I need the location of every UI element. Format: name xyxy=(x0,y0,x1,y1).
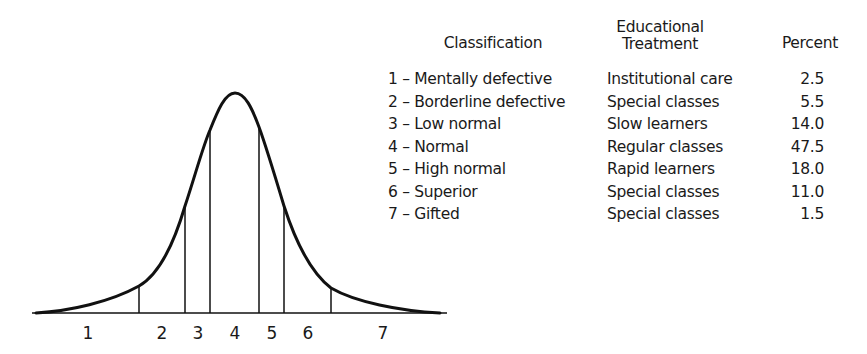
row-classification-7: 7 – Gifted xyxy=(388,205,459,223)
row-classification-1: 1 – Mentally defective xyxy=(388,70,552,88)
row-percent-5: 18.0 xyxy=(764,160,824,178)
row-classification-5: 5 – High normal xyxy=(388,160,506,178)
row-classification-4: 4 – Normal xyxy=(388,138,469,156)
header-treatment-line1: Educational xyxy=(600,19,720,36)
row-classification-3: 3 – Low normal xyxy=(388,115,501,133)
row-percent-7: 1.5 xyxy=(764,205,824,223)
row-treatment-2: Special classes xyxy=(607,93,719,111)
header-percent: Percent xyxy=(770,35,850,52)
header-classification: Classification xyxy=(433,35,553,52)
row-classification-6: 6 – Superior xyxy=(388,183,477,201)
row-treatment-7: Special classes xyxy=(607,205,719,223)
row-treatment-4: Regular classes xyxy=(607,138,723,156)
row-classification-2: 2 – Borderline defective xyxy=(388,93,565,111)
row-percent-2: 5.5 xyxy=(764,93,824,111)
header-treatment-line2: Treatment xyxy=(600,36,720,53)
classification-table: Classification Educational Treatment Per… xyxy=(0,0,867,354)
row-treatment-5: Rapid learners xyxy=(607,160,715,178)
row-treatment-6: Special classes xyxy=(607,183,719,201)
row-percent-4: 47.5 xyxy=(764,138,824,156)
row-percent-1: 2.5 xyxy=(764,70,824,88)
row-treatment-1: Institutional care xyxy=(607,70,732,88)
row-percent-6: 11.0 xyxy=(764,183,824,201)
row-treatment-3: Slow learners xyxy=(607,115,708,133)
row-percent-3: 14.0 xyxy=(764,115,824,133)
